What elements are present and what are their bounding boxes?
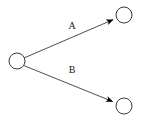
diagram-canvas: A B — [0, 0, 142, 121]
edge-a-group: A — [24, 20, 113, 58]
edge-label-a: A — [68, 20, 76, 31]
node-source[interactable] — [9, 53, 25, 69]
node-target-top[interactable] — [116, 7, 132, 23]
directed-graph-svg: A B — [0, 0, 142, 121]
edge-label-b: B — [69, 64, 76, 75]
node-target-bottom[interactable] — [116, 98, 132, 114]
edge-b-group: B — [24, 64, 113, 102]
